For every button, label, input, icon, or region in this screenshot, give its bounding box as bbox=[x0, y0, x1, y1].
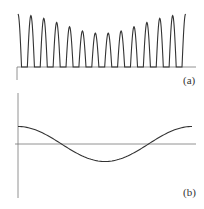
panel-a-axes bbox=[17, 67, 196, 80]
panel-a-pulse-train bbox=[18, 14, 186, 67]
panel-a-label: (a) bbox=[183, 74, 195, 86]
panel-b-label: (b) bbox=[183, 186, 196, 198]
panel-b-axes bbox=[15, 93, 196, 198]
chart-canvas bbox=[0, 0, 204, 209]
